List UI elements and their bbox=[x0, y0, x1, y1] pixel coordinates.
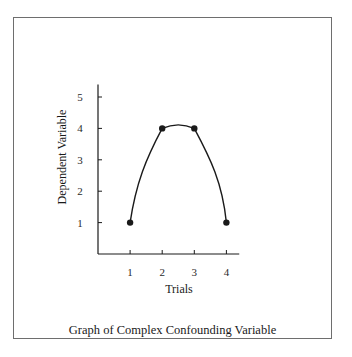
chart-plot: 1234 12345 Trials Dependent Variable bbox=[0, 0, 352, 357]
data-point-marker bbox=[191, 125, 197, 131]
y-tick-label: 3 bbox=[77, 154, 83, 166]
y-tick-label: 4 bbox=[77, 122, 83, 134]
x-tick-label: 4 bbox=[224, 266, 230, 278]
chart-caption: Graph of Complex Confounding Variable bbox=[13, 323, 332, 338]
x-tick-label: 2 bbox=[159, 266, 165, 278]
y-tick-label: 5 bbox=[77, 91, 83, 103]
data-point-marker bbox=[127, 219, 133, 225]
data-points bbox=[127, 125, 230, 226]
y-tick-label: 2 bbox=[77, 185, 83, 197]
data-curve bbox=[130, 125, 226, 223]
y-axis-title: Dependent Variable bbox=[55, 110, 69, 205]
x-tick-label: 3 bbox=[192, 266, 198, 278]
x-axis-title: Trials bbox=[165, 282, 193, 296]
y-tick-label: 1 bbox=[77, 217, 83, 229]
x-tick-label: 1 bbox=[127, 266, 133, 278]
data-point-marker bbox=[159, 125, 165, 131]
axes bbox=[98, 84, 239, 254]
data-point-marker bbox=[223, 219, 229, 225]
